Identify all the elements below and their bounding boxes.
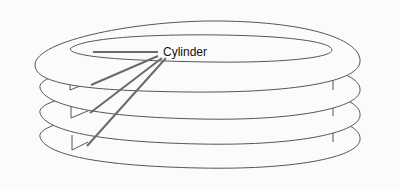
cylinder-label: Cylinder xyxy=(163,45,207,59)
disk-platters-diagram xyxy=(0,0,400,189)
diagram-canvas: Cylinder xyxy=(0,0,400,189)
